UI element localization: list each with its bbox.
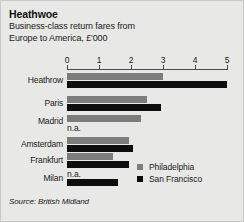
category-label-madrid: Madrid <box>3 116 63 126</box>
category-label-heathrow: Heathrow <box>3 75 63 85</box>
x-tick-mark-3 <box>163 65 164 70</box>
x-tick-label-4: 4 <box>188 55 202 65</box>
source-note: Source: British Midland <box>9 197 89 206</box>
legend-item-sanfrancisco: San Francisco <box>137 173 202 185</box>
category-label-paris: Paris <box>3 98 63 108</box>
x-tick-label-3: 3 <box>156 55 170 65</box>
x-axis-end-cap <box>227 65 228 70</box>
x-axis-start-cap <box>67 65 68 70</box>
bar-frankfurt-sanfrancisco <box>67 161 129 168</box>
chart-card: Heathwoe Business-class return fares fro… <box>0 0 244 222</box>
legend-swatch-philadelphia-icon <box>137 164 143 170</box>
x-tick-label-1: 1 <box>92 55 106 65</box>
x-axis-line <box>67 69 228 70</box>
x-tick-mark-1 <box>99 65 100 70</box>
x-tick-label-0: 0 <box>60 55 74 65</box>
na-label-madrid-sanfrancisco: n.a. <box>67 123 81 133</box>
plot-area: 0 1 2 3 4 5 Heathrow Paris Madrid n.a. A… <box>1 1 244 222</box>
category-label-milan: Milan <box>3 173 63 183</box>
bar-amsterdam-sanfrancisco <box>67 145 133 152</box>
legend-label-philadelphia: Philadelphia <box>149 162 194 172</box>
bar-paris-sanfrancisco <box>67 104 161 111</box>
chart-legend: Philadelphia San Francisco <box>137 161 202 185</box>
na-label-milan-philadelphia: n.a. <box>67 169 81 179</box>
bar-amsterdam-philadelphia <box>67 137 129 144</box>
legend-swatch-sanfrancisco-icon <box>137 176 143 182</box>
x-tick-mark-4 <box>195 65 196 70</box>
bar-milan-sanfrancisco <box>67 179 118 186</box>
legend-item-philadelphia: Philadelphia <box>137 161 202 173</box>
bar-frankfurt-philadelphia <box>67 153 113 160</box>
x-tick-label-5: 5 <box>220 55 234 65</box>
category-label-frankfurt: Frankfurt <box>3 155 63 165</box>
bar-heathrow-philadelphia <box>67 73 163 80</box>
legend-label-sanfrancisco: San Francisco <box>149 174 202 184</box>
bar-paris-philadelphia <box>67 96 147 103</box>
bar-heathrow-sanfrancisco <box>67 81 227 88</box>
category-label-amsterdam: Amsterdam <box>3 139 63 149</box>
bar-madrid-philadelphia <box>67 115 141 122</box>
x-tick-label-2: 2 <box>124 55 138 65</box>
x-tick-mark-2 <box>131 65 132 70</box>
